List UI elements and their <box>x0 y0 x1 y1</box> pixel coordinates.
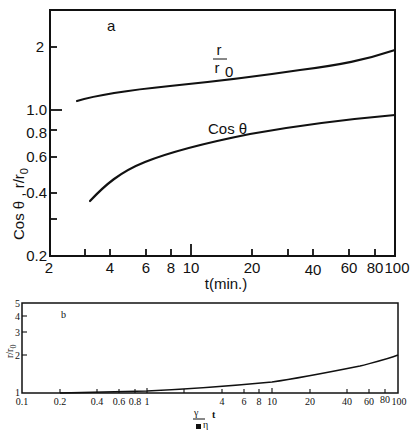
svg-text:4: 4 <box>15 311 20 322</box>
svg-text:0.4: 0.4 <box>91 396 104 407</box>
svg-text:η: η <box>203 419 208 430</box>
panel-a-y-tick-labels: 2 1.0 0.8 0.6 0.4 0.2 <box>26 38 47 264</box>
svg-text:1: 1 <box>145 396 150 407</box>
svg-text:0.6: 0.6 <box>26 148 47 165</box>
curve-r-over-r0 <box>77 50 395 101</box>
svg-text:10: 10 <box>183 259 200 276</box>
panel-b-x-tick-labels: 0.1 0.2 0.4 0.6 0.8 1 4 6 8 10 20 40 60 … <box>16 394 407 407</box>
figure: a 2 1.0 0.8 0.6 0.4 0.2 Cos θ , r/r0 <box>0 0 415 438</box>
panel-a-y-ticks <box>50 47 62 219</box>
svg-text:10: 10 <box>267 396 277 407</box>
svg-text:4: 4 <box>106 259 114 276</box>
svg-text:r: r <box>217 41 222 58</box>
svg-text:γ: γ <box>193 407 199 418</box>
svg-text:100: 100 <box>392 396 407 407</box>
svg-text:100: 100 <box>384 259 409 276</box>
svg-text:0: 0 <box>225 63 233 80</box>
curve-r-over-r0-b <box>60 355 398 393</box>
svg-text:2: 2 <box>15 350 20 361</box>
svg-text:60: 60 <box>341 259 358 276</box>
svg-text:4: 4 <box>220 396 225 407</box>
svg-text:6: 6 <box>142 259 150 276</box>
svg-text:Cos θ , r/r0: Cos θ , r/r0 <box>10 168 30 240</box>
svg-text:2: 2 <box>45 259 53 276</box>
svg-text:8: 8 <box>167 259 175 276</box>
svg-text:40: 40 <box>342 396 352 407</box>
panel-b: b 5 4 3 2 1 r/r0 <box>4 298 407 430</box>
curve-label-r-over-r0: r r 0 <box>213 41 233 80</box>
svg-text:80: 80 <box>367 259 384 276</box>
svg-text:0.8: 0.8 <box>129 396 142 407</box>
svg-text:0.1: 0.1 <box>16 396 29 407</box>
panel-a-y-axis-label: Cos θ , r/r0 <box>10 168 30 240</box>
curve-label-cos-theta: Cos θ <box>208 120 247 137</box>
svg-text:3: 3 <box>15 327 20 338</box>
svg-text:40: 40 <box>305 261 322 278</box>
svg-text:0.8: 0.8 <box>26 124 47 141</box>
svg-text:1.0: 1.0 <box>26 101 47 118</box>
panel-a-x-ticks <box>85 244 375 256</box>
svg-text:8: 8 <box>257 396 262 407</box>
svg-text:60: 60 <box>364 396 374 407</box>
svg-text:80: 80 <box>380 394 390 405</box>
svg-text:5: 5 <box>15 298 20 309</box>
svg-text:2: 2 <box>36 38 44 55</box>
panel-a-x-axis-label: t(min.) <box>205 275 248 292</box>
svg-text:6: 6 <box>242 396 247 407</box>
panel-b-frame <box>22 303 398 393</box>
svg-text:0.4: 0.4 <box>26 184 47 201</box>
svg-text:20: 20 <box>305 396 315 407</box>
svg-text:0.6: 0.6 <box>113 396 126 407</box>
panel-a-label: a <box>107 17 116 34</box>
svg-text:0.2: 0.2 <box>54 396 67 407</box>
svg-text:20: 20 <box>244 259 261 276</box>
panel-a: a 2 1.0 0.8 0.6 0.4 0.2 Cos θ , r/r0 <box>10 10 410 292</box>
svg-text:t: t <box>212 409 216 420</box>
panel-b-x-axis-label: γ η t <box>193 407 216 430</box>
panel-b-label: b <box>61 309 66 320</box>
svg-text:r: r <box>215 59 220 76</box>
